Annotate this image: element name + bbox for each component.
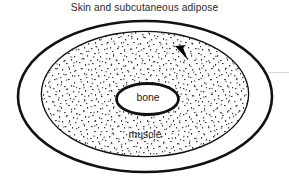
bone-label: bone — [117, 91, 179, 104]
anatomical-cross-section-figure: Skin and subcutaneous adipose — [0, 0, 289, 182]
muscle-label: muscle — [106, 128, 184, 141]
